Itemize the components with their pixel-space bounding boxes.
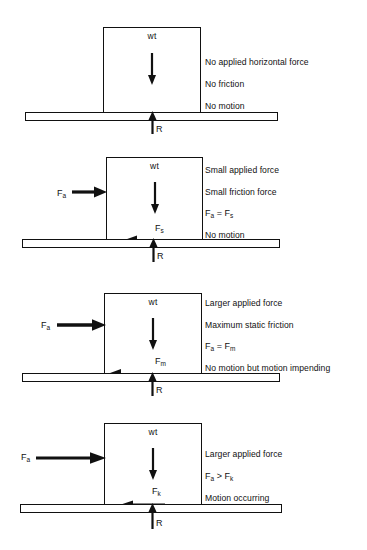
applied-force-arrow-icon — [72, 185, 108, 199]
weight-arrow-icon — [149, 182, 161, 215]
panel-description-line: Small applied force — [205, 165, 279, 175]
normal-force-label: R — [156, 124, 163, 134]
applied-force-label: Fa — [41, 320, 50, 330]
panel-description-line: Small friction force — [205, 187, 277, 197]
weight-label: wt — [105, 427, 201, 437]
normal-force-label: R — [156, 385, 163, 395]
friction-force-symbol: F — [155, 223, 161, 233]
panel-maximum-static-friction: wt Fa Fm R Larger applied force — [0, 280, 367, 420]
panel-description-line: No motion but motion impending — [205, 363, 330, 373]
friction-force-symbol: F — [155, 356, 161, 366]
friction-force-subscript: k — [158, 490, 161, 497]
panel-description-line: No friction — [205, 79, 244, 89]
normal-force-label: R — [157, 251, 164, 261]
panel-description-line: No motion — [205, 230, 245, 240]
weight-arrow-icon — [147, 448, 159, 481]
equation-right-subscript: m — [230, 345, 235, 352]
panel-kinetic-friction: wt Fa Fk R Larger applied force — [0, 410, 367, 550]
equation-right-subscript: s — [230, 212, 233, 219]
weight-label: wt — [107, 161, 202, 171]
weight-label: wt — [105, 297, 201, 307]
panel-equation: Fa = Fm — [205, 341, 235, 351]
panel-description-line: Larger applied force — [205, 298, 282, 308]
friction-force-symbol: F — [152, 486, 158, 496]
normal-force-label: R — [156, 518, 163, 528]
panel-description-line: Motion occurring — [205, 493, 269, 503]
applied-force-subscript: a — [63, 192, 67, 199]
panel-no-applied-force: wt R No applied horizontal force No fric… — [0, 0, 367, 140]
applied-force-symbol: F — [57, 188, 63, 198]
weight-label: wt — [104, 31, 200, 41]
equation-left-symbol: F — [205, 471, 211, 481]
equation-left-subscript: a — [211, 212, 215, 219]
panel-description-line: No motion — [205, 101, 245, 111]
applied-force-subscript: a — [47, 324, 51, 331]
equation-left-subscript: a — [211, 345, 215, 352]
applied-force-arrow-icon — [57, 318, 107, 332]
panel-description-line: Maximum static friction — [205, 320, 294, 330]
equation-left-subscript: a — [211, 475, 215, 482]
panel-equation: Fa = Fs — [205, 208, 233, 218]
applied-force-symbol: F — [21, 452, 27, 462]
applied-force-subscript: a — [27, 456, 31, 463]
weight-arrow-icon — [147, 318, 159, 351]
equation-operator: = — [217, 208, 222, 218]
panel-description-line: Larger applied force — [205, 449, 282, 459]
friction-force-subscript: m — [161, 360, 166, 367]
panel-description-line: No applied horizontal force — [205, 57, 309, 67]
applied-force-arrow-icon — [36, 451, 107, 465]
friction-force-subscript: s — [161, 227, 164, 234]
applied-force-label: Fa — [57, 188, 66, 198]
equation-left-symbol: F — [205, 341, 211, 351]
friction-diagram: wt R No applied horizontal force No fric… — [0, 0, 367, 550]
panel-equation: Fa > Fk — [205, 471, 233, 481]
friction-force-label: Fm — [155, 356, 166, 366]
weight-arrow-icon — [146, 53, 158, 86]
applied-force-label: Fa — [21, 452, 30, 462]
equation-operator: = — [217, 341, 222, 351]
panel-small-applied-force: wt Fa Fs R Small applied force Sma — [0, 140, 367, 280]
applied-force-symbol: F — [41, 320, 47, 330]
friction-force-label: Fs — [155, 223, 164, 233]
equation-left-symbol: F — [205, 208, 211, 218]
equation-operator: > — [217, 471, 222, 481]
equation-right-subscript: k — [230, 475, 233, 482]
friction-force-label: Fk — [152, 486, 161, 496]
